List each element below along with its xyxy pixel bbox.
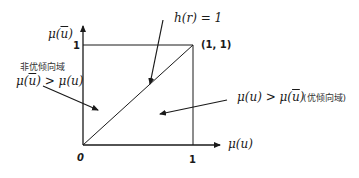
y-axis-label-prefix: μ(	[48, 27, 60, 41]
y-axis-label-suffix: )	[68, 27, 73, 41]
right-region-title: (优倾向域)	[303, 94, 346, 103]
y-axis-label: μ(u)	[48, 28, 73, 40]
right-ineq-part-a: μ(u) > μ(	[237, 90, 292, 104]
x-tick-1: 1	[189, 155, 196, 165]
left-region-arrow	[43, 86, 98, 110]
right-region-inequality: μ(u) > μ(u)	[237, 91, 304, 103]
left-ineq-part-b: ) > μ(u)	[36, 74, 83, 88]
diagonal-line	[83, 45, 193, 145]
diagonal-label: h(r) = 1	[174, 12, 222, 24]
y-tick-1: 1	[73, 41, 80, 51]
corner-label: (1, 1)	[201, 40, 231, 50]
left-ineq-part-a: μ(	[16, 74, 28, 88]
left-region-inequality: μ(u) > μ(u)	[16, 75, 83, 87]
origin-label: 0	[77, 153, 84, 163]
right-ineq-bar-var: u	[292, 90, 300, 104]
x-axis-label: μ(u)	[228, 138, 253, 150]
left-region-title: 非优倾向域	[20, 63, 65, 72]
